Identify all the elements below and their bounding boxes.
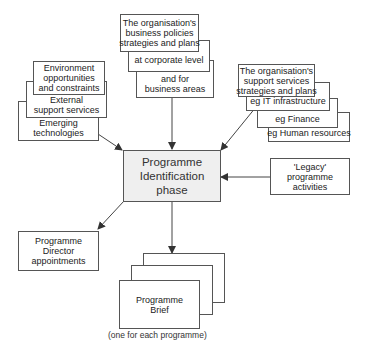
director-line-3: appointments — [31, 256, 85, 266]
business-areas-line-1: and for — [161, 74, 189, 84]
corporate-level-line: at corporate level — [134, 55, 203, 65]
central-line-3: phase — [156, 183, 187, 197]
central-line-1: Programme — [142, 155, 202, 169]
finance-line: eg Finance — [275, 114, 320, 124]
programme-brief-box: Programme Brief — [119, 280, 200, 329]
programme-identification-box: Programme Identification phase — [123, 150, 221, 202]
programme-identification-diagram: and for business areas at corporate leve… — [0, 0, 368, 344]
emerging-technologies-line-1: Emerging — [39, 118, 78, 128]
brief-line-1: Programme — [136, 295, 183, 305]
external-support-line-1: External — [50, 95, 83, 105]
environment-line-3: and constraints — [38, 83, 99, 93]
central-line-2: Identification — [140, 169, 205, 183]
environment-box: Environment opportunities and constraint… — [33, 61, 105, 95]
brief-caption: (one for each programme) — [108, 330, 207, 340]
support-services-line-3: strategies and plans — [236, 86, 317, 96]
legacy-line-2: programme — [287, 172, 333, 182]
support-services-line-2: support services — [244, 76, 310, 86]
programme-director-box: Programme Director appointments — [18, 231, 99, 271]
environment-line-1: Environment — [44, 63, 95, 73]
business-policies-line-2: business policies — [125, 28, 193, 38]
director-line-1: Programme — [35, 236, 82, 246]
business-policies-box: The organisation's business policies str… — [120, 14, 199, 52]
brief-line-2: Brief — [150, 305, 169, 315]
environment-line-2: opportunities — [43, 73, 95, 83]
support-services-line-1: The organisation's — [240, 66, 313, 76]
director-line-2: Director — [43, 246, 75, 256]
business-policies-line-3: strategies and plans — [119, 38, 200, 48]
legacy-line-3: activities — [293, 182, 328, 192]
legacy-activities-box: 'Legacy' programme activities — [270, 158, 350, 195]
human-resources-line: eg Human resources — [267, 128, 351, 138]
legacy-line-1: 'Legacy' — [294, 162, 326, 172]
external-support-line-2: support services — [34, 105, 100, 115]
support-services-box: The organisation's support services stra… — [238, 64, 315, 97]
business-areas-line-2: business areas — [145, 84, 206, 94]
it-infrastructure-line: eg IT infrastructure — [250, 96, 325, 106]
emerging-technologies-line-2: technologies — [33, 128, 84, 138]
business-policies-line-1: The organisation's — [123, 18, 196, 28]
